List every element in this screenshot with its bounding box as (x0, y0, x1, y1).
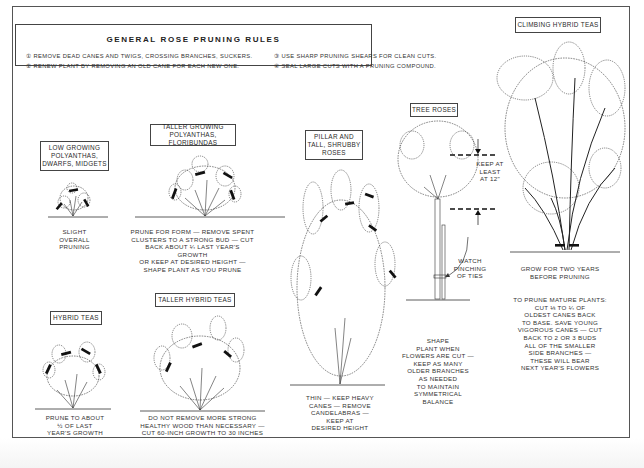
rule-3: ③ USE SHARP PRUNING SHEARS FOR CLEAN CUT… (274, 53, 437, 59)
caption-taller-polyanthas: PRUNE FOR FORM — REMOVE SPENT CLUSTERS T… (130, 228, 255, 274)
low-growing-shrub-illustration (40, 178, 120, 220)
page-bottom-strip (0, 438, 644, 468)
rule-2: ② RENEW PLANT BY REMOVING AN OLD CANE FO… (26, 63, 239, 69)
rule-4: ④ SEAL LARGE CUTS WITH A PRUNING COMPOUN… (274, 63, 436, 69)
hybrid-teas-shrub-illustration (35, 330, 115, 410)
caption-low-growing: SLIGHT OVERALL PRUNING (40, 228, 109, 251)
label-pillar-roses: PILLAR AND TALL, SHRUBBY ROSES (305, 130, 363, 160)
pruning-cut-mark-icon (45, 348, 102, 375)
taller-hybrid-teas-shrub-illustration (140, 312, 265, 412)
caption-hybrid-teas: PRUNE TO ABOUT ½ OF LAST YEAR'S GROWTH (35, 414, 115, 437)
caption-climbing-grow: GROW FOR TWO YEARS BEFORE PRUNING (515, 265, 605, 280)
caption-climbing-mature: TO PRUNE MATURE PLANTS: CUT ⅓ TO ¼ OF OL… (505, 296, 615, 372)
caption-taller-hybrid-teas: DO NOT REMOVE MORE STRONG HEALTHY WOOD T… (140, 414, 265, 437)
pillar-roses-shrub-illustration (285, 168, 400, 386)
note-watch-ties: WATCH PINCHING OF TIES (450, 257, 490, 280)
label-taller-hybrid-teas: TALLER HYBRID TEAS (155, 293, 235, 307)
rule-text: RENEW PLANT BY REMOVING AN OLD CANE FOR … (34, 63, 240, 69)
label-taller-polyanthas: TALLER GROWING POLYANTHAS, FLORIBUNDAS (150, 124, 236, 146)
label-hybrid-teas: HYBRID TEAS (50, 311, 102, 325)
rules-box: GENERAL ROSE PRUNING RULES ① REMOVE DEAD… (15, 24, 372, 66)
rules-title: GENERAL ROSE PRUNING RULES (16, 35, 371, 44)
caption-tree-roses: SHAPE PLANT WHEN FLOWERS ARE CUT — KEEP … (398, 337, 478, 405)
pruning-cut-mark-icon (314, 193, 396, 296)
rule-text: USE SHARP PRUNING SHEARS FOR CLEAN CUTS. (282, 53, 437, 59)
caption-pillar-roses: THIN — KEEP HEAVY CANES — REMOVE CANDELA… (285, 394, 395, 432)
rule-text: SEAL LARGE CUTS WITH A PRUNING COMPOUND. (282, 63, 437, 69)
taller-polyanthas-shrub-illustration (155, 150, 265, 220)
rule-number: ① (26, 53, 32, 59)
label-low-growing: LOW GROWING POLYANTHAS, DWARFS, MIDGETS (40, 141, 109, 171)
rule-number: ③ (274, 53, 280, 59)
rule-text: REMOVE DEAD CANES AND TWIGS, CROSSING BR… (34, 53, 253, 59)
label-climbing-hybrid-teas: CLIMBING HYBRID TEAS (515, 17, 601, 33)
rule-1: ① REMOVE DEAD CANES AND TWIGS, CROSSING … (26, 53, 252, 59)
climbing-rose-illustration (495, 38, 630, 258)
pruning-cut-mark-icon (165, 342, 232, 372)
rule-number: ② (26, 63, 32, 69)
tree-rose-illustration (390, 115, 500, 315)
rule-number: ④ (274, 63, 280, 69)
